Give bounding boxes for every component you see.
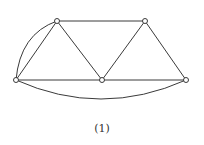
edge-top-right-middle bbox=[102, 21, 145, 80]
edge-top-right-right bbox=[145, 21, 186, 80]
figure-caption: (1) bbox=[0, 122, 204, 135]
vertex-left bbox=[14, 78, 19, 83]
vertex-top-right bbox=[143, 19, 148, 24]
vertex-top-left bbox=[55, 19, 60, 24]
vertex-middle bbox=[100, 78, 105, 83]
curved-edge-left-right bbox=[16, 80, 186, 99]
edges bbox=[16, 21, 186, 99]
vertices bbox=[14, 19, 189, 83]
vertex-right bbox=[184, 78, 189, 83]
edge-top-left-middle bbox=[57, 21, 102, 80]
edge-top-left-left bbox=[16, 21, 57, 80]
